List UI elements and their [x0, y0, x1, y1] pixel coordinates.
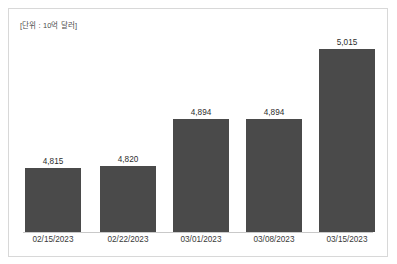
bar-value-label: 5,015	[319, 38, 375, 47]
bar-rect[interactable]	[173, 119, 229, 232]
x-axis-tick-label: 03/15/2023	[309, 235, 385, 244]
chart-plot-area: 4,815 02/15/2023 4,820 02/22/2023 4,894 …	[9, 9, 387, 256]
bar-group: 4,894	[173, 119, 229, 232]
bar-value-label: 4,820	[100, 155, 156, 164]
bar-value-label: 4,894	[246, 108, 302, 117]
bar-group: 5,015	[319, 49, 375, 232]
x-axis-tick-label: 03/08/2023	[236, 235, 312, 244]
bar-group: 4,815	[25, 168, 81, 232]
bar-rect[interactable]	[246, 119, 302, 232]
bar-value-label: 4,894	[173, 108, 229, 117]
x-axis-tick-label: 03/01/2023	[163, 235, 239, 244]
x-axis-tick-label: 02/15/2023	[15, 235, 91, 244]
x-axis-line	[23, 232, 373, 233]
chart-card: [단위 : 10억 달러] 4,815 02/15/2023 4,820 02/…	[8, 8, 388, 257]
x-axis-tick-label: 02/22/2023	[90, 235, 166, 244]
bar-rect[interactable]	[100, 166, 156, 232]
bar-rect[interactable]	[319, 49, 375, 232]
bar-group: 4,820	[100, 166, 156, 232]
bar-group: 4,894	[246, 119, 302, 232]
bar-value-label: 4,815	[25, 157, 81, 166]
bar-rect[interactable]	[25, 168, 81, 232]
